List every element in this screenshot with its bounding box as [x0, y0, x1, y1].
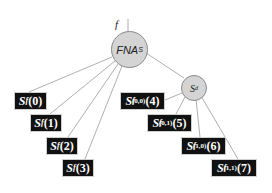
leaf-index: (7) [237, 159, 251, 177]
edge-root-leaf2 [68, 64, 118, 137]
leaf-index: (5) [172, 114, 186, 132]
leaf-sf-6: Sf(1,0)(6) [181, 137, 226, 155]
leaf-sup: (0,1) [159, 114, 172, 132]
leaf-index: (1) [44, 114, 58, 132]
root-node-subscript: S [138, 46, 143, 53]
leaf-sf-1: Sf(1) [30, 114, 62, 132]
internal-node-sd: Sd [181, 75, 207, 101]
leaf-base: S [66, 159, 73, 177]
leaf-sf-5: Sf(0,1)(5) [147, 114, 192, 132]
edge-internal-leaf5 [176, 97, 185, 114]
edge-root-leaf3 [85, 66, 122, 159]
leaf-sf-2: Sf(2) [46, 137, 78, 155]
leaf-index: (6) [206, 137, 220, 155]
root-node-label: FNA [116, 44, 138, 56]
leaf-base: S [34, 114, 41, 132]
leaf-sf-0: Sf(0) [14, 92, 47, 110]
edge-root-leaf1 [50, 61, 115, 114]
internal-node-subscript: d [195, 85, 198, 91]
edge-internal-leaf6 [196, 99, 200, 137]
leaf-index: (2) [60, 137, 74, 155]
leaf-index: (4) [145, 92, 159, 110]
leaf-sup: (0,0) [132, 92, 145, 110]
leaf-sf-7: Sf(1,1)(7) [211, 159, 257, 177]
leaf-sup: (1,0) [193, 137, 206, 155]
leaf-base: S [19, 92, 26, 110]
edge-root-internal [146, 53, 184, 78]
leaf-index: (0) [28, 92, 42, 110]
edge-root-leaf0 [29, 57, 112, 92]
input-label-f: f [115, 18, 118, 30]
edge-internal-leaf4 [165, 93, 182, 100]
leaf-sf-3: Sf(3) [62, 159, 94, 177]
leaf-sup: (1,1) [223, 159, 236, 177]
leaf-sf-4: Sf(0,0)(4) [120, 92, 165, 110]
leaf-base: S [50, 137, 57, 155]
leaf-index: (3) [76, 159, 90, 177]
root-node-fna: FNAS [111, 31, 148, 68]
